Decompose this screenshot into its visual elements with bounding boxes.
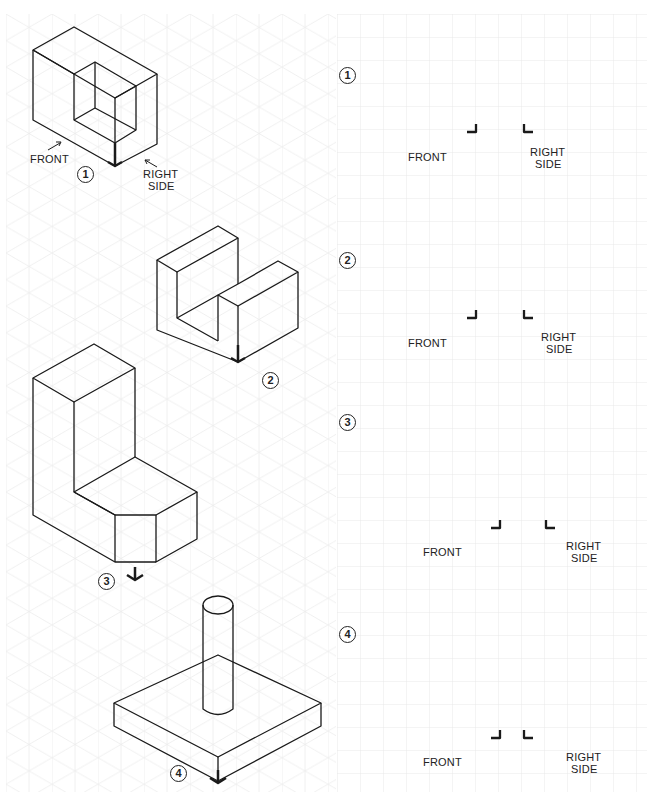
view-2-front-label: FRONT [408, 337, 447, 349]
view-3-front-label: FRONT [423, 546, 462, 558]
object-2-isometric [157, 226, 298, 362]
view-4-right-label-line2: SIDE [571, 763, 597, 775]
view-1-right-label-line1: RIGHT [530, 146, 565, 158]
iso-2-number-badge: 2 [262, 372, 279, 389]
object-3-isometric [33, 344, 197, 580]
view-1-number-badge: 1 [339, 67, 356, 84]
worksheet: FRONT 1 RIGHT SIDE 2 3 4 1 FRONT RIGHT S… [0, 0, 653, 792]
view-3-right-label-line2: SIDE [571, 552, 597, 564]
iso-3-number-badge: 3 [98, 573, 115, 590]
iso-1-number-badge: 1 [77, 166, 94, 183]
isometric-drawings [0, 0, 653, 792]
view-2-number-badge: 2 [339, 252, 356, 269]
iso-1-right-label-line2: SIDE [148, 180, 174, 192]
view-3-number-badge: 3 [339, 414, 356, 431]
view-3-right-label-line1: RIGHT [566, 540, 601, 552]
iso-1-right-label-line1: RIGHT [143, 168, 178, 180]
view-2-right-label-line1: RIGHT [541, 331, 576, 343]
object-1-isometric [33, 27, 157, 167]
view-corner-marks [467, 124, 555, 738]
view-4-number-badge: 4 [339, 626, 356, 643]
iso-1-front-label: FRONT [30, 153, 69, 165]
view-2-right-label-line2: SIDE [546, 343, 572, 355]
view-4-right-label-line1: RIGHT [566, 751, 601, 763]
view-1-right-label-line2: SIDE [535, 158, 561, 170]
iso-4-number-badge: 4 [170, 765, 187, 782]
view-4-front-label: FRONT [423, 756, 462, 768]
view-1-front-label: FRONT [408, 151, 447, 163]
object-4-isometric [114, 596, 321, 783]
